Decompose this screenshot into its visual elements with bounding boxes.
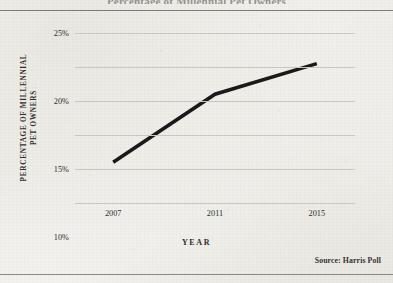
gridline-15: 15%: [75, 101, 355, 102]
series-polyline: [113, 64, 317, 163]
x-tick-label: 2015: [309, 209, 326, 218]
x-tick-label: 2011: [207, 209, 223, 218]
top-divider-rule: [0, 10, 393, 11]
y-axis-title: PERCENTAGE OF MILLENNIAL PET OWNERS: [20, 23, 39, 213]
clipped-headline: Percentage of Millennial Pet Owners: [0, 0, 393, 4]
gridline-10: 10%: [75, 135, 355, 136]
chart-figure: Percentage of Millennial Pet Owners PERC…: [0, 0, 393, 283]
gridline-0: 0%: [75, 203, 355, 204]
gridline-25: 25%: [75, 33, 355, 34]
x-tick-label: 2007: [105, 209, 122, 218]
plot-area: 0%5%10%15%20%25%200720112015: [75, 33, 355, 203]
gridline-20: 20%: [75, 67, 355, 68]
bottom-divider-rule: [0, 274, 393, 275]
y-tick-label: 25%: [54, 29, 69, 38]
source-note: Source: Harris Poll: [315, 256, 381, 265]
line-series: [75, 33, 355, 203]
y-axis-title-line-1: PERCENTAGE OF MILLENNIAL: [20, 54, 28, 182]
gridline-5: 5%: [75, 169, 355, 170]
y-axis-title-line-2: PET OWNERS: [29, 23, 39, 213]
y-tick-label: 20%: [54, 97, 69, 106]
x-axis-title: YEAR: [0, 238, 393, 247]
y-tick-label: 15%: [54, 165, 69, 174]
